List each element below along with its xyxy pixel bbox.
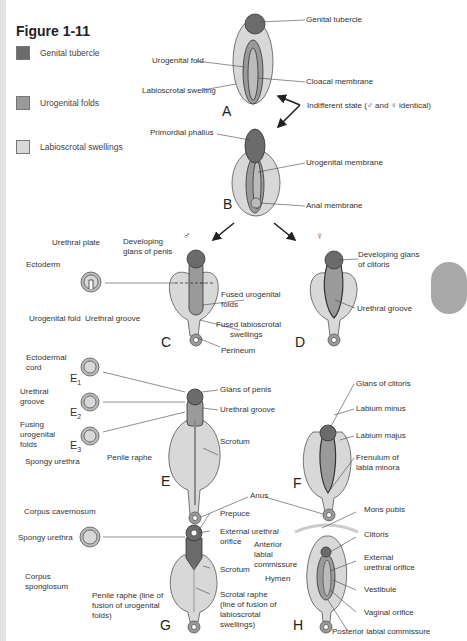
label-hymen: Hymen <box>265 574 290 584</box>
label-urethral-groove-e-1: Urethral <box>20 387 48 397</box>
label-external-urethral-orifice-g-1: External urethral <box>220 527 279 537</box>
label-clitoris: Clitoris <box>364 530 388 540</box>
label-glans-of-clitoris: Glans of clitoris <box>356 379 411 389</box>
panel-letter-e: E <box>161 473 170 489</box>
label-external-urethral-orifice-h-2: urethral orifice <box>364 563 415 573</box>
label-labium-majus: Labium majus <box>356 431 406 441</box>
label-external-urethral-orifice-h-1: External <box>364 553 393 563</box>
label-scrotal-raphe-2: (line of fusion of <box>220 600 276 610</box>
label-urethral-groove-e: Urethral groove <box>220 405 275 415</box>
panel-letter-f: F <box>293 475 302 491</box>
label-urethral-groove-d: Urethral groove <box>357 304 412 314</box>
label-spongy-urethra-g: Spongy urethra <box>18 533 73 543</box>
label-urethral-groove-e-2: groove <box>20 397 44 407</box>
label-labium-minus: Labium minus <box>356 404 406 414</box>
male-symbol: ♂ <box>183 231 191 241</box>
label-urethral-plate: Urethral plate <box>52 238 100 248</box>
label-vestibule: Vestibule <box>364 585 396 595</box>
label-fused-labioscrotal-2: swellings <box>230 330 262 340</box>
label-developing-glans-penis-2: glans of penis <box>123 247 172 257</box>
label-anterior-labial-commissure-2: labial <box>254 550 273 560</box>
label-urogenital-membrane: Urogenital membrane <box>306 158 383 168</box>
label-scrotum-g: Scrotum <box>220 565 250 575</box>
panel-letter-d: D <box>295 334 305 350</box>
label-urethral-groove-c: Urethral groove <box>85 314 140 324</box>
label-labioscrotal-swelling-a: Labioscrotal swelling <box>142 86 216 96</box>
label-fusing-folds-3: folds <box>20 440 37 450</box>
e1-subscript: 1 <box>77 379 81 386</box>
label-ectoderm: Ectoderm <box>26 260 60 270</box>
label-indifferent-state: Indifferent state (♂ and ♀ identical) <box>307 101 431 111</box>
label-prepuce: Prepuce <box>220 509 250 519</box>
label-fused-urogenital-folds-2: folds <box>221 300 238 310</box>
label-posterior-labial-commissure: Posterior labial commissure <box>332 627 430 637</box>
label-developing-glans-clitoris-1: Developing glans <box>358 250 419 260</box>
panel-letter-a: A <box>222 103 231 119</box>
label-perineum: Perineum <box>221 346 255 356</box>
label-fused-labioscrotal-1: Fused labioscrotal <box>216 320 281 330</box>
label-frenulum-1: Frenulum of <box>356 453 399 463</box>
label-ectodermal-cord-2: cord <box>26 363 42 373</box>
label-e3: E3 <box>70 440 81 455</box>
label-external-urethral-orifice-g-2: orifice <box>220 537 241 547</box>
panel-letter-c: C <box>161 334 171 350</box>
label-scrotal-raphe-1: Scrotal raphe <box>220 590 268 600</box>
label-scrotal-raphe-4: swellings) <box>220 620 255 630</box>
panel-letter-g: G <box>160 617 171 633</box>
label-anterior-labial-commissure-1: Anterior <box>254 540 282 550</box>
label-scrotum-e: Scrotum <box>220 437 250 447</box>
label-spongy-urethra-e: Spongy urethra <box>25 457 80 467</box>
label-corpus-cavernosum: Corpus cavernosum <box>24 507 96 517</box>
panel-letter-b: B <box>223 196 232 212</box>
label-genital-tubercle-a: Genital tubercle <box>306 15 362 25</box>
panel-letter-h: H <box>293 617 303 633</box>
label-penile-raphe-e: Penile raphe <box>107 453 152 463</box>
label-ectodermal-cord-1: Ectodermal <box>26 353 66 363</box>
female-symbol: ♀ <box>316 231 324 241</box>
label-penile-raphe-g-1: Penile raphe (line of <box>92 591 163 601</box>
label-mons-pubis: Mons pubis <box>364 505 405 515</box>
label-e2: E2 <box>70 407 81 422</box>
label-vaginal-orifice: Vaginal orifice <box>364 608 414 618</box>
label-penile-raphe-g-3: folds) <box>92 611 112 621</box>
label-corpus-spongiosum-2: spongiosum <box>25 582 68 592</box>
label-urogenital-fold-c: Urogenital fold <box>29 314 81 324</box>
e3-subscript: 3 <box>77 446 81 453</box>
label-fusing-folds-1: Fusing <box>20 420 44 430</box>
label-urogenital-fold-a: Urogenital fold <box>152 56 204 66</box>
label-scrotal-raphe-3: labioscrotal <box>220 610 260 620</box>
label-cloacal-membrane: Cloacal membrane <box>306 77 373 87</box>
label-fused-urogenital-folds-1: Fused urogenital <box>221 290 281 300</box>
label-anus: Anus <box>250 491 268 501</box>
label-frenulum-2: labia minora <box>356 463 400 473</box>
label-penile-raphe-g-2: fusion of urogenital <box>92 601 160 611</box>
label-developing-glans-penis-1: Developing <box>123 237 163 247</box>
label-anal-membrane: Anal membrane <box>306 201 362 211</box>
label-e1: E1 <box>70 373 81 388</box>
label-developing-glans-clitoris-2: of clitoris <box>358 260 390 270</box>
label-anterior-labial-commissure-3: commissure <box>254 560 297 570</box>
label-corpus-spongiosum-1: Corpus <box>25 572 51 582</box>
e2-subscript: 2 <box>77 413 81 420</box>
label-primordial-phallus: Primordial phallus <box>150 128 214 138</box>
label-fusing-folds-2: urogenital <box>20 430 55 440</box>
label-glans-of-penis: Glans of penis <box>220 385 271 395</box>
